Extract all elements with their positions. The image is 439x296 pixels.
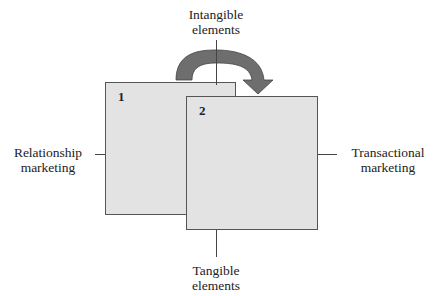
label-left: Relationship marketing <box>4 145 92 175</box>
label-bottom-line2: elements <box>166 278 266 293</box>
label-bottom-line1: Tangible <box>166 263 266 278</box>
label-top-line1: Intangible <box>166 7 266 22</box>
label-bottom: Tangible elements <box>166 263 266 293</box>
label-right-line1: Transactional <box>340 145 436 160</box>
label-left-line1: Relationship <box>4 145 92 160</box>
label-right-line2: marketing <box>340 160 436 175</box>
curved-arrow-shape <box>176 50 273 94</box>
label-top: Intangible elements <box>166 7 266 37</box>
label-left-line2: marketing <box>4 160 92 175</box>
label-top-line2: elements <box>166 22 266 37</box>
label-right: Transactional marketing <box>340 145 436 175</box>
